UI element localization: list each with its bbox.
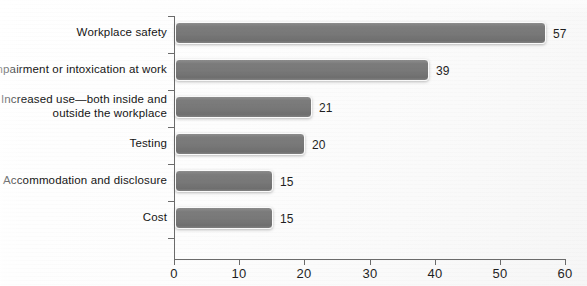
x-axis-tick <box>370 259 371 265</box>
bar-value-label: 20 <box>312 138 326 152</box>
bar-row: Testing 20 <box>0 130 587 167</box>
y-axis-tick <box>168 16 175 17</box>
bar-row: Workplace safety 57 <box>0 19 587 56</box>
bar <box>175 96 312 118</box>
x-axis-tick <box>304 259 305 265</box>
bar-value-label: 57 <box>553 27 567 41</box>
x-axis-tick-label: 60 <box>558 266 573 281</box>
bar-row: Increased use—both inside and outside th… <box>0 93 587 130</box>
x-axis-tick <box>435 259 436 265</box>
x-axis-tick-label: 40 <box>428 266 443 281</box>
category-label: Accommodation and disclosure <box>0 174 167 188</box>
bar-row: Impairment or intoxication at work 39 <box>0 56 587 93</box>
x-axis-tick-label: 0 <box>170 266 177 281</box>
bar <box>175 207 273 229</box>
bar-row: Cost 15 <box>0 204 587 241</box>
bar <box>175 59 429 81</box>
bar <box>175 133 305 155</box>
bar <box>175 170 273 192</box>
x-axis-tick <box>500 259 501 265</box>
plot-area: Workplace safety 57 Impairment or intoxi… <box>0 0 587 286</box>
x-axis-tick-label: 20 <box>297 266 312 281</box>
bar-value-label: 15 <box>280 175 294 189</box>
x-axis-tick-label: 50 <box>493 266 508 281</box>
x-axis-tick <box>239 259 240 265</box>
category-label: Cost <box>0 211 167 225</box>
bar-value-label: 39 <box>436 64 450 78</box>
category-label: Impairment or intoxication at work <box>0 63 167 77</box>
category-label: Testing <box>0 137 167 151</box>
x-axis-tick <box>174 259 175 265</box>
bar-row: Accommodation and disclosure 15 <box>0 167 587 204</box>
x-axis-tick <box>565 259 566 265</box>
x-axis-tick-label: 30 <box>363 266 378 281</box>
x-axis-tick-label: 10 <box>232 266 247 281</box>
bar-value-label: 15 <box>280 212 294 226</box>
bar-value-label: 21 <box>319 101 333 115</box>
bar <box>175 22 546 44</box>
bar-chart: Workplace safety 57 Impairment or intoxi… <box>0 0 587 286</box>
category-label: Workplace safety <box>0 26 167 40</box>
category-label: Increased use—both inside and outside th… <box>0 93 167 120</box>
